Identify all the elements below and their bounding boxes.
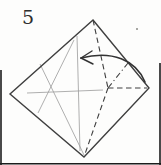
origami-step-panel: 5 xyxy=(0,0,161,165)
fold-arrow xyxy=(81,55,145,82)
print-speck xyxy=(136,28,138,30)
mountain-fold-upper-right xyxy=(108,63,128,88)
origami-diagram xyxy=(0,0,161,165)
diagonal-crease-ne-sw xyxy=(38,40,74,113)
diagonal-crease-nw-se xyxy=(40,64,84,155)
fold-arrowhead-barb-2 xyxy=(81,58,93,64)
vertical-crease xyxy=(77,36,80,151)
horizontal-crease xyxy=(27,90,103,93)
